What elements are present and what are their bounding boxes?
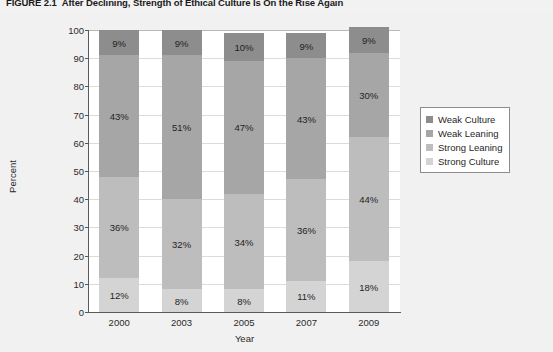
bar-segment[interactable]: 36%	[99, 177, 139, 279]
bar-segment[interactable]: 47%	[224, 61, 264, 194]
x-tick-label: 2003	[152, 317, 212, 328]
bar-segment[interactable]: 44%	[349, 137, 389, 261]
legend-item[interactable]: Weak Culture	[426, 112, 502, 126]
x-axis-line	[88, 312, 401, 313]
bar-segment[interactable]: 8%	[224, 289, 264, 312]
chart-legend: Weak CultureWeak LeaningStrong LeaningSt…	[420, 107, 510, 173]
figure-title-text: After Declining, Strength of Ethical Cul…	[62, 0, 343, 8]
y-tick-label: 70	[58, 109, 84, 120]
bar-segment[interactable]: 9%	[349, 27, 389, 52]
y-tick-label: 60	[58, 137, 84, 148]
bar-segment[interactable]: 9%	[286, 33, 326, 58]
y-axis-line	[88, 30, 89, 313]
bar-value-label: 9%	[349, 34, 389, 45]
legend-item[interactable]: Strong Leaning	[426, 140, 502, 154]
bar-value-label: 8%	[224, 295, 264, 306]
bar-value-label: 18%	[349, 281, 389, 292]
bar-segment[interactable]: 9%	[99, 30, 139, 55]
x-axis-title: Year	[88, 333, 401, 344]
bar-segment[interactable]: 43%	[286, 58, 326, 179]
bar-segment[interactable]: 18%	[349, 261, 389, 312]
bar-column[interactable]: 18%44%30%9%	[349, 30, 389, 312]
legend-label: Strong Culture	[438, 156, 499, 167]
bar-segment[interactable]: 36%	[286, 179, 326, 281]
bar-segment[interactable]: 10%	[224, 33, 264, 61]
bar-value-label: 43%	[286, 113, 326, 124]
legend-label: Weak Culture	[438, 114, 495, 125]
y-tick-label: 10	[58, 278, 84, 289]
bar-value-label: 9%	[286, 40, 326, 51]
bar-column[interactable]: 12%36%43%9%	[99, 30, 139, 312]
bar-value-label: 10%	[224, 41, 264, 52]
bar-value-label: 30%	[349, 89, 389, 100]
bar-value-label: 36%	[286, 225, 326, 236]
bar-column[interactable]: 8%34%47%10%	[224, 30, 264, 312]
bar-column[interactable]: 11%36%43%9%	[286, 30, 326, 312]
bar-value-label: 12%	[99, 290, 139, 301]
figure-number: FIGURE 2.1	[6, 0, 57, 8]
bar-value-label: 9%	[99, 37, 139, 48]
bar-value-label: 9%	[162, 37, 202, 48]
y-axis-ticks: 0102030405060708090100	[54, 30, 84, 313]
bar-column[interactable]: 8%32%51%9%	[162, 30, 202, 312]
bar-segment[interactable]: 9%	[162, 30, 202, 55]
bar-segment[interactable]: 12%	[99, 278, 139, 312]
bar-value-label: 44%	[349, 194, 389, 205]
bar-segment[interactable]: 11%	[286, 281, 326, 312]
bar-value-label: 47%	[224, 122, 264, 133]
figure-title: FIGURE 2.1After Declining, Strength of E…	[6, 0, 343, 8]
x-tick-label: 2009	[339, 317, 399, 328]
x-tick-label: 2007	[276, 317, 336, 328]
bar-segment[interactable]: 51%	[162, 55, 202, 199]
chart-canvas: Percent 0102030405060708090100 12%36%43%…	[0, 11, 553, 352]
bar-segment[interactable]: 8%	[162, 289, 202, 312]
bar-value-label: 8%	[162, 295, 202, 306]
y-tick-label: 40	[58, 194, 84, 205]
bar-segment[interactable]: 30%	[349, 53, 389, 138]
bar-segment[interactable]: 43%	[99, 55, 139, 176]
y-tick-label: 0	[58, 307, 84, 318]
y-tick-label: 50	[58, 166, 84, 177]
legend-label: Weak Leaning	[438, 128, 499, 139]
bar-value-label: 51%	[162, 122, 202, 133]
plot-area: 12%36%43%9%8%32%51%9%8%34%47%10%11%36%43…	[88, 30, 400, 312]
y-tick-label: 80	[58, 81, 84, 92]
legend-swatch-icon	[426, 130, 433, 137]
bar-segment[interactable]: 34%	[224, 194, 264, 290]
legend-swatch-icon	[426, 144, 433, 151]
bar-value-label: 11%	[286, 291, 326, 302]
y-tick-label: 100	[58, 25, 84, 36]
y-tick-label: 90	[58, 53, 84, 64]
y-tick-label: 30	[58, 222, 84, 233]
legend-swatch-icon	[426, 158, 433, 165]
y-axis-title: Percent	[7, 160, 18, 193]
legend-label: Strong Leaning	[438, 142, 502, 153]
bar-value-label: 36%	[99, 222, 139, 233]
legend-swatch-icon	[426, 116, 433, 123]
bar-segment[interactable]: 32%	[162, 199, 202, 289]
bar-value-label: 43%	[99, 111, 139, 122]
y-tick-label: 20	[58, 250, 84, 261]
x-tick-label: 2005	[214, 317, 274, 328]
legend-item[interactable]: Weak Leaning	[426, 126, 502, 140]
x-tick-label: 2000	[89, 317, 149, 328]
bar-value-label: 32%	[162, 239, 202, 250]
bar-value-label: 34%	[224, 236, 264, 247]
legend-item[interactable]: Strong Culture	[426, 154, 502, 168]
